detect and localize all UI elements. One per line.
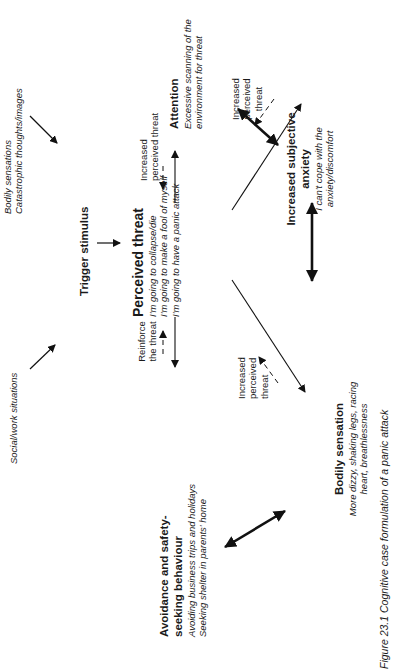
node-social-situations: Social/work situations bbox=[8, 373, 19, 464]
attention-line1: Excessive scanning of the bbox=[182, 19, 193, 129]
node-increased-anxiety: Increased subjective anxiety I can't cop… bbox=[285, 104, 335, 234]
avoidance-title-line1: Avoidance and safety- bbox=[158, 484, 172, 637]
edge-label-attention-line2: perceived threat bbox=[149, 113, 160, 181]
anxiety-title-line2: anxiety bbox=[299, 104, 313, 234]
anxiety-title-line1: Increased subjective bbox=[285, 104, 299, 234]
figure-caption: Figure 23.1 Cognitive case formulation o… bbox=[378, 410, 391, 669]
avoidance-title-line2: seeking behaviour bbox=[172, 484, 186, 637]
edge-label-bodily: Increased perceived threat bbox=[236, 357, 270, 399]
node-bodily-sensation: Bodily sensation More dizzy, shaking leg… bbox=[333, 364, 370, 534]
edge-label-bodily-line1: Increased bbox=[236, 357, 247, 399]
bodily-trigger-line2: Catastrophic thoughts/images bbox=[13, 88, 24, 214]
arrow-bodily-to-trigger bbox=[30, 116, 57, 143]
diagram-canvas: Social/work situations Bodily sensations… bbox=[0, 0, 395, 669]
avoidance-line1: Avoiding business trips and holidays bbox=[186, 484, 197, 637]
perceived-threat-line1: I'm going to collapse/die bbox=[147, 176, 158, 317]
edge-label-avoidance: Reinforce the threat bbox=[136, 314, 159, 369]
bodily-line1: More dizzy, shaking legs, racing bbox=[347, 364, 358, 534]
arrow-social-to-trigger bbox=[30, 345, 55, 369]
perceived-threat-title: Perceived threat bbox=[130, 176, 147, 317]
attention-line2: environment for threat bbox=[193, 19, 204, 129]
edge-label-avoidance-line1: Reinforce bbox=[136, 314, 147, 369]
avoidance-line2: Seeking shelter in parents' home bbox=[197, 484, 208, 637]
bodily-line2: heart, breathlessness bbox=[358, 364, 369, 534]
edge-label-bodily-line2: perceived bbox=[247, 357, 258, 399]
bodily-trigger-line1: Bodily sensations bbox=[2, 88, 13, 214]
edge-label-attention: Increased perceived threat bbox=[138, 113, 161, 181]
perceived-threat-line2: I'm going to make a fool of myself bbox=[158, 176, 169, 317]
edge-label-anxiety-line2: perceived bbox=[241, 69, 252, 129]
edge-label-bodily-line3: threat bbox=[259, 357, 270, 399]
node-avoidance: Avoidance and safety- seeking behaviour … bbox=[158, 484, 208, 637]
edge-label-anxiety-line3: threat bbox=[253, 69, 264, 129]
anxiety-line1: I can't cope with the bbox=[313, 104, 324, 234]
edge-label-avoidance-line2: the threat bbox=[147, 314, 158, 369]
perceived-threat-line3: I'm going to have a panic attack bbox=[170, 176, 181, 317]
edge-label-anxiety-line1: Increased bbox=[230, 69, 241, 129]
node-trigger-stimulus: Trigger stimulus bbox=[78, 207, 92, 296]
edge-label-attention-line1: Increased bbox=[138, 113, 149, 181]
node-attention: Attention Excessive scanning of the envi… bbox=[168, 19, 205, 129]
anxiety-line2: anxiety/discomfort bbox=[324, 104, 335, 234]
node-perceived-threat: Perceived threat I'm going to collapse/d… bbox=[130, 176, 181, 317]
node-bodily-sensations-trigger: Bodily sensations Catastrophic thoughts/… bbox=[2, 88, 25, 214]
edge-label-anxiety: Increased perceived threat bbox=[230, 69, 264, 129]
double-arrow-avoidance-bodily bbox=[225, 511, 285, 547]
bodily-title: Bodily sensation bbox=[333, 364, 347, 534]
attention-title: Attention bbox=[168, 19, 182, 129]
